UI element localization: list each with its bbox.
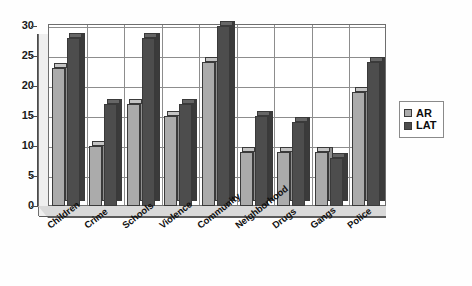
bar-face xyxy=(202,62,215,206)
legend-item: LAT xyxy=(404,120,437,131)
bar-face xyxy=(89,146,102,206)
bar-side xyxy=(230,21,235,201)
bar-side xyxy=(268,111,273,201)
legend-swatch-icon xyxy=(404,122,412,130)
bar-face xyxy=(367,62,380,206)
bar-children-lat xyxy=(67,38,80,206)
bar-side xyxy=(117,99,122,201)
bar-violence-ar xyxy=(164,116,177,206)
bar-community-ar xyxy=(202,62,215,206)
bar-face xyxy=(179,104,192,206)
bar-neighborhood-lat xyxy=(255,116,268,206)
bar-schools-lat xyxy=(142,38,155,206)
bar-face xyxy=(292,122,305,206)
bar-side xyxy=(155,33,160,201)
bar-face xyxy=(315,152,328,206)
bar-side xyxy=(192,99,197,201)
legend-label: LAT xyxy=(416,120,437,131)
bar-face xyxy=(52,68,65,206)
bar-children-ar xyxy=(52,68,65,206)
bar-face xyxy=(142,38,155,206)
chart-legend: AR LAT xyxy=(399,101,444,138)
bar-police-lat xyxy=(367,62,380,206)
bar-face xyxy=(164,116,177,206)
bar-gangs-lat xyxy=(330,158,343,206)
bar-face xyxy=(255,116,268,206)
bar-face xyxy=(217,26,230,206)
bar-side xyxy=(380,57,385,201)
bars-layer xyxy=(0,0,472,286)
bar-crime-ar xyxy=(89,146,102,206)
bar-community-lat xyxy=(217,26,230,206)
legend-label: AR xyxy=(416,108,432,119)
bar-face xyxy=(104,104,117,206)
bar-police-ar xyxy=(352,92,365,206)
bar-face xyxy=(352,92,365,206)
bar-drugs-lat xyxy=(292,122,305,206)
bar-crime-lat xyxy=(104,104,117,206)
bar-chart: 302520151050 ChildrenCrimeSchoolsViolenc… xyxy=(0,0,472,286)
bar-violence-lat xyxy=(179,104,192,206)
bar-side xyxy=(305,117,310,201)
bar-face xyxy=(330,158,343,206)
bar-face xyxy=(127,104,140,206)
bar-side xyxy=(343,153,348,201)
bar-side xyxy=(80,33,85,201)
legend-swatch-icon xyxy=(404,109,412,117)
bar-face xyxy=(67,38,80,206)
bar-schools-ar xyxy=(127,104,140,206)
legend-item: AR xyxy=(404,108,437,119)
bar-gangs-ar xyxy=(315,152,328,206)
